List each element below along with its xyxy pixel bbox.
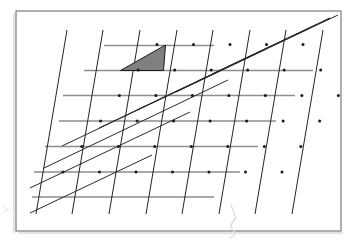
lattice-node — [99, 120, 102, 123]
lattice-node — [281, 171, 284, 174]
lattice-node — [135, 171, 138, 174]
lattice-node — [192, 43, 195, 46]
lattice-node — [264, 94, 267, 97]
lattice-node — [136, 120, 139, 123]
lattice-node — [265, 43, 268, 46]
lattice-node — [173, 69, 176, 72]
lattice-node — [318, 120, 321, 123]
lattice-node — [118, 94, 121, 97]
lattice-node — [283, 69, 286, 72]
lattice-node — [244, 171, 247, 174]
lattice-node — [337, 94, 340, 97]
lattice-node — [137, 69, 140, 72]
lattice-node — [302, 43, 305, 46]
lattice-node — [226, 145, 229, 148]
lattice-node — [208, 171, 211, 174]
lattice-node — [263, 145, 266, 148]
lattice-node — [299, 145, 302, 148]
lattice-node — [209, 120, 212, 123]
lattice-node — [319, 69, 322, 72]
lattice-node — [98, 171, 101, 174]
lattice-node — [156, 43, 159, 46]
lattice-node — [190, 145, 193, 148]
lattice-node — [191, 94, 194, 97]
lattice-node — [154, 94, 157, 97]
lattice-node — [229, 43, 232, 46]
lattice-node — [210, 69, 213, 72]
lattice-node — [245, 120, 248, 123]
lattice-node — [62, 171, 65, 174]
lattice-node — [282, 120, 285, 123]
lattice-node — [227, 94, 230, 97]
lattice-figure-svg — [0, 0, 358, 245]
lattice-node — [172, 120, 175, 123]
lattice-figure-canvas — [0, 0, 358, 245]
lattice-node — [171, 171, 174, 174]
paper-background — [0, 0, 358, 245]
lattice-node — [300, 94, 303, 97]
lattice-node — [117, 145, 120, 148]
lattice-node — [80, 145, 83, 148]
lattice-node — [246, 69, 249, 72]
lattice-node — [153, 145, 156, 148]
